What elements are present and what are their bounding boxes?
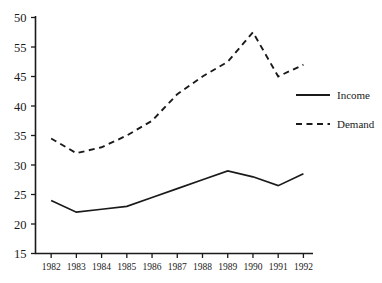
series-line-demand [51, 32, 303, 153]
chart-canvas: 505545403530252015 198219831984198519861… [0, 0, 382, 283]
series-line-income [51, 171, 303, 212]
x-axis-tick-labels: 1982198319841985198619871988198919901991… [42, 262, 314, 272]
x-axis-label: 1984 [92, 262, 111, 272]
legend-label-demand: Demand [337, 118, 375, 130]
y-axis-label: 20 [14, 218, 27, 232]
y-axis-label: 35 [14, 129, 27, 143]
x-axis-label: 1990 [243, 262, 262, 272]
x-axis-label: 1985 [117, 262, 136, 272]
line-chart: 505545403530252015 198219831984198519861… [0, 0, 382, 283]
y-axis-label: 50 [14, 11, 27, 25]
y-axis-label: 45 [14, 70, 27, 84]
legend-label-income: Income [337, 89, 370, 101]
y-axis-label: 40 [14, 100, 27, 114]
y-axis-tick-labels: 505545403530252015 [14, 11, 27, 261]
x-axis-label: 1983 [67, 262, 86, 272]
axis-spines [36, 16, 314, 254]
y-axis-label: 25 [14, 188, 27, 202]
x-axis-label: 1987 [168, 262, 187, 272]
chart-legend: IncomeDemand [296, 89, 375, 130]
y-axis-label: 30 [14, 159, 27, 173]
x-axis-label: 1986 [143, 262, 162, 272]
x-axis-label: 1992 [294, 262, 313, 272]
x-axis-label: 1988 [193, 262, 212, 272]
x-axis-label: 1989 [218, 262, 237, 272]
y-axis-label: 55 [14, 41, 27, 55]
y-axis-label: 15 [14, 247, 27, 261]
data-series-layer [51, 32, 303, 212]
x-axis-label: 1982 [42, 262, 61, 272]
x-axis-label: 1991 [269, 262, 288, 272]
